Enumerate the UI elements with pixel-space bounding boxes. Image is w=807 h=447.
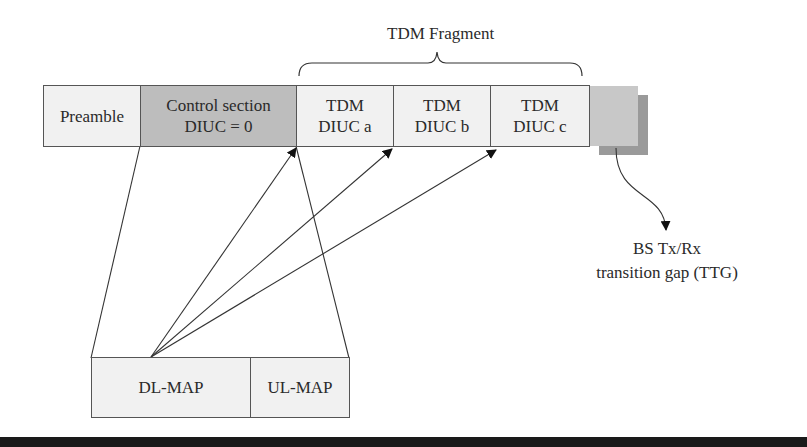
dl-map-label: DL-MAP (138, 377, 203, 398)
expand-line-left (91, 146, 140, 358)
control-section-cell: Control section DIUC = 0 (140, 85, 297, 147)
tdm-diuc-b-cell: TDM DIUC b (393, 85, 491, 147)
ttg-label: BS Tx/Rx transition gap (TTG) (587, 237, 747, 285)
arrow-to-diuc-c (151, 150, 496, 357)
arrow-to-diuc-a (151, 148, 296, 357)
expand-line-right (296, 146, 349, 358)
preamble-cell: Preamble (43, 85, 141, 147)
arrow-to-diuc-b (151, 149, 392, 357)
tdm-c-label: TDM (521, 95, 559, 116)
fragment-label: TDM Fragment (387, 24, 487, 44)
gap-block-front (589, 86, 638, 146)
tdm-diuc-a-cell: TDM DIUC a (296, 85, 394, 147)
control-label: Control section (166, 95, 270, 116)
dl-map-cell: DL-MAP (91, 357, 251, 418)
tdm-b-diuc: DIUC b (415, 116, 469, 137)
ttg-label-line1: BS Tx/Rx (587, 237, 747, 261)
preamble-label: Preamble (60, 106, 124, 127)
tdm-a-diuc: DIUC a (318, 116, 371, 137)
tdm-c-diuc: DIUC c (513, 116, 566, 137)
tdm-diuc-c-cell: TDM DIUC c (490, 85, 590, 147)
ul-map-cell: UL-MAP (250, 357, 350, 418)
tdm-b-label: TDM (423, 95, 461, 116)
fragment-brace (299, 52, 582, 76)
ttg-arrow (616, 148, 666, 230)
ttg-label-line2: transition gap (TTG) (587, 261, 747, 285)
tdm-a-label: TDM (326, 95, 364, 116)
control-diuc: DIUC = 0 (184, 116, 252, 137)
ul-map-label: UL-MAP (267, 377, 332, 398)
bottom-border-bar (0, 437, 807, 447)
